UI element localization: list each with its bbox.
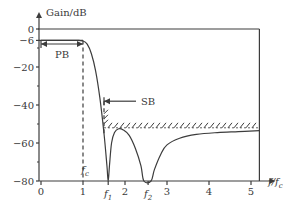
y-ticks: 0−6−20−40−60−80 — [13, 24, 39, 187]
x-tick-label: 1 — [80, 186, 86, 197]
hatch-mark — [228, 123, 232, 128]
x-tick-label: 2 — [122, 186, 128, 197]
hatch-mark — [180, 123, 184, 128]
axes — [36, 12, 275, 184]
hatch-mark — [132, 123, 136, 128]
chart: 0−6−20−40−60−80 012345 fcf1f2 PBSB Gain/… — [0, 0, 305, 205]
hatch-mark — [252, 123, 256, 128]
reference-lines — [39, 40, 259, 181]
hatch-mark — [186, 123, 190, 128]
x-special-tick-label: f2 — [143, 188, 153, 202]
hatch-mark — [222, 123, 226, 128]
response-curve — [41, 40, 259, 182]
y-tick-label: −40 — [13, 100, 34, 111]
hatch-mark — [192, 123, 196, 128]
hatch-mark — [108, 123, 112, 128]
hatch-mark — [144, 123, 148, 128]
sb-label: SB — [141, 96, 155, 107]
y-tick-label: −20 — [13, 62, 34, 73]
x-special-tick-label: fc — [80, 164, 89, 178]
arrow-left-icon — [104, 98, 110, 104]
hatch-mark — [104, 120, 108, 124]
hatch-mark — [126, 123, 130, 128]
hatch-mark — [210, 123, 214, 128]
hatch-mark — [216, 123, 220, 128]
hatch-mark — [168, 123, 172, 128]
x-special-tick-label: f1 — [103, 188, 112, 202]
x-tick-label: 4 — [206, 186, 212, 197]
x-tick-label: 5 — [248, 186, 254, 197]
hatch-mark — [150, 123, 154, 128]
hatch-mark — [156, 123, 160, 128]
hatch-mark — [198, 123, 202, 128]
hatch-mark — [234, 123, 238, 128]
hatch-mark — [162, 123, 166, 128]
pb-label: PB — [55, 49, 69, 60]
hatch-mark — [246, 123, 250, 128]
y-axis-arrow-icon — [36, 12, 42, 18]
x-axis-title: f/fc — [267, 176, 283, 190]
x-tick-label: 3 — [164, 186, 170, 197]
hatch-mark — [138, 123, 142, 128]
hatch-mark — [114, 123, 118, 128]
response-curve-line — [41, 40, 259, 182]
annotations: PBSB — [41, 40, 155, 107]
hatch-mark — [240, 123, 244, 128]
y-tick-label: −6 — [19, 35, 34, 46]
arrow-left-icon — [41, 41, 47, 47]
hatch-mark — [204, 123, 208, 128]
y-axis-title: Gain/dB — [46, 7, 87, 18]
y-tick-label: −80 — [13, 176, 34, 187]
y-tick-label: 0 — [28, 24, 34, 35]
arrow-right-icon — [77, 41, 83, 47]
hatch-mark — [120, 123, 124, 128]
hatch-mark — [174, 123, 178, 128]
y-tick-label: −60 — [13, 138, 34, 149]
x-tick-label: 0 — [38, 186, 44, 197]
